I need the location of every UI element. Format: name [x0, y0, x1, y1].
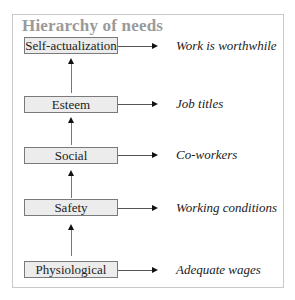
example-self-actualization: Work is worthwhile — [176, 38, 277, 54]
need-box-social: Social — [24, 147, 118, 164]
arrow-right-icon — [118, 270, 156, 271]
example-social: Co-workers — [176, 147, 237, 163]
need-box-esteem: Esteem — [24, 96, 118, 113]
example-physiological: Adequate wages — [176, 262, 261, 278]
arrow-right-icon — [118, 104, 156, 105]
diagram-title: Hierarchy of needs — [22, 16, 163, 36]
arrow-up-icon — [71, 226, 72, 256]
arrow-up-icon — [71, 172, 72, 198]
need-box-self-actualization: Self-actualization — [24, 37, 118, 54]
example-safety: Working conditions — [176, 200, 277, 216]
arrow-up-icon — [71, 119, 72, 145]
need-box-safety: Safety — [24, 199, 118, 216]
example-esteem: Job titles — [176, 96, 223, 112]
arrow-up-icon — [71, 60, 72, 93]
arrow-right-icon — [118, 155, 156, 156]
arrow-right-icon — [118, 208, 156, 209]
arrow-right-icon — [118, 46, 156, 47]
need-box-physiological: Physiological — [24, 261, 118, 278]
